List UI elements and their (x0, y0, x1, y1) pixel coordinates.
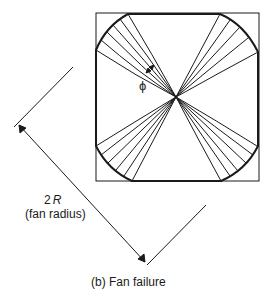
dimension-label-prefix: 2 (44, 193, 51, 207)
angle-marker (146, 65, 154, 73)
fan-top-right (176, 14, 258, 97)
dimension-description: (fan radius) (25, 207, 86, 221)
angle-label: ϕ (139, 78, 146, 93)
dimension-label-symbol: R (53, 193, 62, 207)
bounding-square (96, 13, 259, 181)
dimension-label: 2R (44, 193, 62, 207)
extension-line-top (14, 67, 73, 127)
fan-failure-diagram: ϕ 2R (fan radius) (b) Fan failure (0, 0, 272, 300)
figure-caption: (b) Fan failure (91, 275, 166, 289)
extension-line-bottom (147, 205, 206, 265)
fan-top-left (96, 14, 176, 97)
ray-fans (96, 14, 258, 181)
fan-bottom-right (176, 97, 257, 181)
fan-bottom-left (96, 97, 176, 181)
